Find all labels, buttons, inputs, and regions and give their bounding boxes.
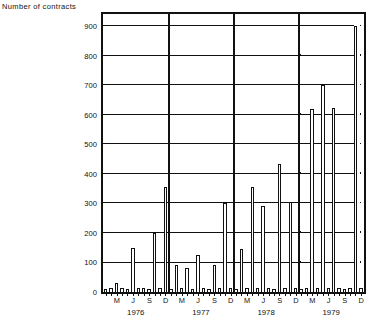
bar (261, 206, 264, 292)
grid-dot (360, 143, 362, 145)
year-group-label: 1979 (313, 308, 349, 317)
month-tick-label: S (143, 296, 155, 305)
gridline (103, 114, 354, 115)
month-tick-label: S (274, 296, 286, 305)
month-tick-label: M (241, 296, 253, 305)
y-tick-label: 900 (65, 22, 97, 31)
year-separator (168, 14, 170, 292)
bar (115, 283, 118, 292)
chart-container: Number of contracts 01002003004005006007… (0, 0, 384, 326)
y-tick-label: 200 (65, 229, 97, 238)
grid-dot (300, 202, 302, 204)
x-axis-tick (106, 292, 107, 296)
grid-dot (233, 25, 235, 27)
grid-dot (360, 113, 362, 115)
grid-dot (233, 113, 235, 115)
month-tick-label: J (127, 296, 139, 305)
month-tick-label: J (257, 296, 269, 305)
month-tick-label: M (176, 296, 188, 305)
plot-area (101, 12, 366, 294)
month-tick-label: D (225, 296, 237, 305)
gridline (103, 202, 354, 203)
bar (240, 249, 243, 292)
grid-dot (300, 261, 302, 263)
gridline (103, 232, 354, 233)
month-tick-label: J (192, 296, 204, 305)
bar (223, 203, 226, 292)
y-tick-label: 600 (65, 111, 97, 120)
grid-dot (300, 84, 302, 86)
gridline (103, 25, 354, 26)
grid-dot (233, 261, 235, 263)
grid-dot (300, 172, 302, 174)
bar (310, 109, 313, 292)
bar (153, 233, 156, 292)
bar (251, 187, 254, 292)
gridline (103, 55, 354, 56)
month-tick-label: M (306, 296, 318, 305)
y-tick-label: 300 (65, 199, 97, 208)
gridline (103, 143, 354, 144)
y-tick-label: 0 (65, 288, 97, 297)
month-tick-label: D (290, 296, 302, 305)
grid-dot (360, 231, 362, 233)
month-tick-label: S (208, 296, 220, 305)
grid-dot (360, 261, 362, 263)
year-group-label: 1977 (183, 308, 219, 317)
bar (321, 85, 324, 292)
year-group-label: 1978 (248, 308, 284, 317)
grid-dot (233, 54, 235, 56)
grid-dot (360, 84, 362, 86)
y-tick-label: 800 (65, 52, 97, 61)
grid-dot (300, 25, 302, 27)
month-tick-label: J (323, 296, 335, 305)
grid-dot (300, 54, 302, 56)
month-tick-label: D (160, 296, 172, 305)
grid-dot (300, 143, 302, 145)
grid-dot (300, 231, 302, 233)
y-tick-label: 100 (65, 258, 97, 267)
grid-dot (360, 202, 362, 204)
grid-dot (233, 172, 235, 174)
grid-dot (233, 231, 235, 233)
bar (131, 248, 134, 292)
bar (354, 26, 357, 292)
y-tick-label: 500 (65, 140, 97, 149)
y-tick-label: 400 (65, 170, 97, 179)
bar (332, 108, 335, 292)
bar (278, 164, 281, 292)
grid-dot (360, 54, 362, 56)
month-tick-label: M (111, 296, 123, 305)
grid-dot (300, 113, 302, 115)
month-tick-label: D (355, 296, 367, 305)
gridline (103, 173, 354, 174)
bar (196, 255, 199, 292)
bar (213, 265, 216, 292)
grid-dot (233, 143, 235, 145)
gridline (103, 262, 354, 263)
grid-dot (360, 25, 362, 27)
grid-dot (360, 172, 362, 174)
y-tick-label: 700 (65, 81, 97, 90)
chart-axis-title: Number of contracts (2, 2, 76, 11)
year-group-label: 1976 (118, 308, 154, 317)
bar (164, 187, 167, 292)
grid-dot (233, 202, 235, 204)
gridline (103, 84, 354, 85)
bar (289, 202, 292, 292)
grid-dot (233, 84, 235, 86)
bar (175, 265, 178, 292)
month-tick-label: S (339, 296, 351, 305)
bar (185, 268, 188, 292)
